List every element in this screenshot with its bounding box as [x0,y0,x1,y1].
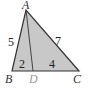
point-label-d: D [28,72,38,86]
length-bd: 2 [19,57,25,71]
vertex-label-c: C [73,72,82,86]
triangle-diagram: A B D C 5 7 2 4 [0,0,90,92]
vertex-label-b: B [5,72,13,86]
vertex-label-a: A [21,0,30,12]
length-ac: 7 [55,34,61,48]
length-ab: 5 [8,35,14,49]
length-dc: 4 [49,57,55,71]
